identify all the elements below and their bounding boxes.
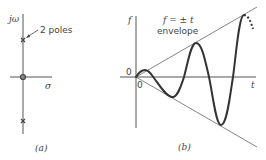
arrow-icon <box>26 30 38 38</box>
sigma-axis-label: σ <box>45 81 52 91</box>
envelope-equation: f = ± t <box>162 15 194 25</box>
response-curve-continuation <box>244 15 253 29</box>
caption-b: (b) <box>178 142 191 152</box>
upper-envelope-line <box>136 7 257 77</box>
origin-label-f: 0 <box>126 67 132 77</box>
caption-a: (a) <box>35 143 48 153</box>
figure-canvas: jω σ 2 poles (a) f t 0 0 f = ± <box>0 0 266 160</box>
two-poles-annotation: 2 poles <box>40 25 73 35</box>
origin-label-t: 0 <box>137 80 143 90</box>
f-axis-label: f <box>127 15 133 25</box>
zero-origin-icon <box>21 75 26 80</box>
envelope-label: envelope <box>157 26 199 36</box>
panel-b-time-response: f t 0 0 f = ± t envelope (b) <box>120 7 257 152</box>
lower-envelope-line <box>136 77 257 147</box>
t-axis-label: t <box>251 80 255 90</box>
jw-axis-label: jω <box>7 14 20 24</box>
panel-a-s-plane: jω σ 2 poles (a) <box>7 14 73 153</box>
